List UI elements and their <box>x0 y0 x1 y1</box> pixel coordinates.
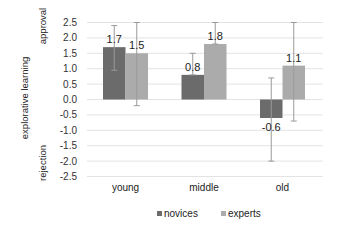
legend-label-novices: novices <box>164 208 198 219</box>
data-label: 1.5 <box>129 39 144 51</box>
y-tick-label: -1.0 <box>60 125 78 136</box>
y-tick-label: 0.0 <box>63 94 77 105</box>
y-axis-title: explorative learning <box>19 57 30 139</box>
y-axis-labels: 2.52.01.51.00.50.0-0.5-1.0-1.5-2.0-2.5 <box>60 17 78 182</box>
y-tick-label: -0.5 <box>60 109 78 120</box>
legend-label-experts: experts <box>228 208 261 219</box>
legend-swatch-experts <box>221 211 226 216</box>
category-label-old: old <box>276 182 289 193</box>
y-tick-label: -2.5 <box>60 171 78 182</box>
axis-titles: explorative learningapprovalrejection <box>19 8 48 181</box>
data-label: 1.7 <box>107 33 122 45</box>
data-label: 1.1 <box>286 52 301 64</box>
bars <box>103 44 305 118</box>
bar-experts-middle <box>204 44 227 99</box>
y-tick-label: 1.5 <box>63 48 77 59</box>
category-label-young: young <box>112 182 139 193</box>
bar-chart: 2.52.01.51.00.50.0-0.5-1.0-1.5-2.0-2.5 1… <box>0 0 341 229</box>
data-label: 1.8 <box>208 30 223 42</box>
y-tick-label: -2.0 <box>60 156 78 167</box>
legend: novicesexperts <box>157 208 261 219</box>
legend-swatch-novices <box>157 211 162 216</box>
y-tick-label: 1.0 <box>63 63 77 74</box>
y-axis-title-approval: approval <box>37 8 48 44</box>
y-tick-label: 2.5 <box>63 17 77 28</box>
category-labels: youngmiddleold <box>112 182 289 193</box>
category-label-middle: middle <box>189 182 219 193</box>
data-label: 0.8 <box>185 61 200 73</box>
y-tick-label: -1.5 <box>60 140 78 151</box>
y-tick-label: 2.0 <box>63 32 77 43</box>
bar-novices-middle <box>182 75 205 100</box>
data-label: -0.6 <box>262 121 281 133</box>
y-tick-label: 0.5 <box>63 79 77 90</box>
y-axis-title-rejection: rejection <box>37 145 48 181</box>
